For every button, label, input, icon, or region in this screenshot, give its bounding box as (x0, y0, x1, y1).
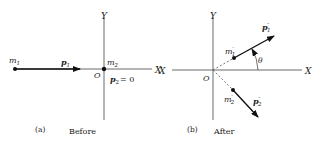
momentum-p1-prime-arrow (234, 36, 274, 58)
momentum-p2-prime-label: p′2 (253, 96, 262, 107)
caption-after: After (213, 127, 235, 136)
trajectory-m2-dashed (213, 70, 233, 90)
panel-before: Y X O m1 p1 m2 p2= 0 (a) Before (9, 11, 162, 136)
y-axis-label: Y (101, 11, 108, 21)
x-axis-label: X (304, 66, 312, 76)
x-axis-label-left: X (158, 66, 166, 76)
panel-after: Y X X O m′1 p′1 θ m′2 p′2 (b) After (158, 11, 312, 136)
origin-label: O (94, 71, 101, 80)
origin-label: O (203, 74, 210, 83)
mass-m2-label: m2 (107, 58, 119, 68)
caption-before: Before (69, 127, 96, 136)
mass-m1-prime-label: m′1 (225, 46, 235, 57)
particle-m2-dot (102, 67, 106, 71)
mass-m2-prime-label: m′2 (224, 94, 235, 105)
angle-theta-label: θ (258, 56, 263, 65)
momentum-p1-prime-label: p′1 (262, 22, 271, 33)
momentum-p2-label: p2= 0 (110, 74, 134, 85)
mass-m1-label: m1 (9, 56, 20, 66)
trajectory-m1-dashed (213, 58, 234, 70)
y-axis-label: Y (210, 11, 217, 21)
caption-letter-a: (a) (35, 125, 45, 134)
collision-diagram: Y X O m1 p1 m2 p2= 0 (a) Before Y X X O … (0, 0, 320, 150)
caption-letter-b: (b) (187, 125, 198, 134)
momentum-p1-label: p1 (61, 57, 70, 68)
